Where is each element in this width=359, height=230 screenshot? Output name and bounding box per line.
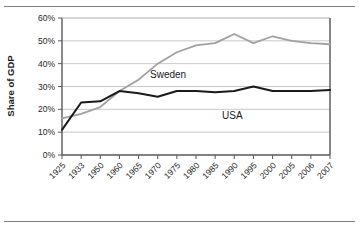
y-axis-title: Share of GDP <box>5 55 16 117</box>
x-tick-label: 1975 <box>162 160 183 181</box>
line-chart: 0%10%20%30%40%50%60% 1925193319501960196… <box>0 0 359 230</box>
y-tick-label: 30% <box>38 82 55 92</box>
series-line-usa <box>62 87 330 130</box>
series-label-sweden: Sweden <box>150 69 186 80</box>
x-tick-label: 1970 <box>143 160 164 181</box>
series-lines-group <box>62 34 330 130</box>
x-tick-label: 1950 <box>85 160 106 181</box>
x-tick-label: 1925 <box>47 160 68 181</box>
chart-figure: 0%10%20%30%40%50%60% 1925193319501960196… <box>0 0 359 230</box>
y-axis-ticks-group: 0%10%20%30%40%50%60% <box>38 13 62 160</box>
y-tick-label: 40% <box>38 59 55 69</box>
x-tick-label: 1980 <box>181 160 202 181</box>
series-line-sweden <box>62 34 330 118</box>
series-label-usa: USA <box>222 110 243 121</box>
y-tick-label: 60% <box>38 13 55 23</box>
x-tick-label: 1933 <box>66 160 87 181</box>
x-tick-label: 1990 <box>219 160 240 181</box>
x-tick-label: 1985 <box>200 160 221 181</box>
y-tick-label: 20% <box>38 104 55 114</box>
x-tick-label: 2006 <box>296 160 317 181</box>
y-tick-label: 10% <box>38 127 55 137</box>
x-tick-label: 2007 <box>315 160 336 181</box>
x-tick-label: 1960 <box>104 160 125 181</box>
gridlines-group <box>62 18 330 132</box>
x-tick-label: 2005 <box>277 160 298 181</box>
x-tick-label: 1995 <box>238 160 259 181</box>
y-tick-label: 0% <box>43 150 56 160</box>
x-axis-ticks-group: 1925193319501960196519701975198019851990… <box>47 155 336 181</box>
y-tick-label: 50% <box>38 36 55 46</box>
x-tick-label: 2000 <box>258 160 279 181</box>
x-tick-label: 1965 <box>124 160 145 181</box>
